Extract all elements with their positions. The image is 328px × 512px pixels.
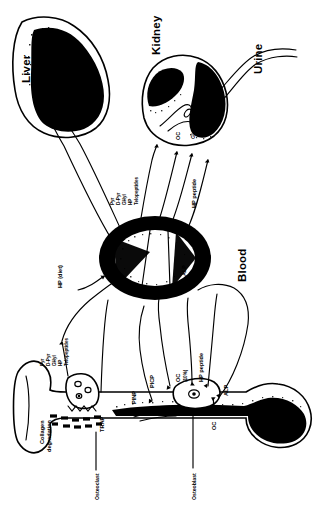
blood-alp-label: ALP [181,265,187,276]
flux-hp-peptide-line [186,160,208,232]
pinp-label: PINP [131,391,137,404]
flux-label-hp-peptide: HP peptide [191,179,197,208]
liver-group: Liver Free HP PICP [13,17,110,137]
hp-diet-label: HP (diet) [57,265,63,288]
picp-line [158,298,170,386]
kidney-oc-label: OC [175,132,181,140]
blood-trap-label: TRAP [119,273,125,288]
liver-picp-label: PICP [54,113,60,126]
osteoblast-nucleolus [192,392,196,396]
kidney-group: Kidney OC Gla [142,15,297,145]
bone-alp-label: ALP [223,385,229,396]
bone-product-dpyr: D-Pyr [46,354,51,366]
flux-label-telopeptides: Telopeptides [134,177,139,205]
bone-hp-peptide-line [208,294,217,386]
osteoblast-cell [173,379,220,409]
flux-gla-head [189,153,194,157]
flux-degradation-line [141,145,157,218]
bone-product-telopeptides: Telopeptides [64,338,69,366]
flux-degradation-labels: Pyr D-Pyr GHyl HP Telopeptides [110,177,139,205]
urine-label: Urine [252,44,264,74]
blood-group: TRAP ALP Blood [99,216,248,300]
flux-label-dpyr: D-Pyr [116,193,121,205]
flux-label-ghyl: GHyl [122,194,127,205]
picp-label: PICP [149,375,155,388]
resorption-products-labels: Pyr D-Pyr GHyl HP Telopeptides [40,338,69,366]
trap-line [101,300,108,392]
flux-label-pyr: Pyr [110,197,115,205]
bone-group: Collagen degradation Osteoclast Pyr D-Py… [14,282,312,500]
oc10-label-line2: (10%) [183,369,188,382]
flux-degradation-head [154,144,159,148]
liver-label: Liver [20,54,32,83]
flux-gla-line [172,154,192,222]
hp-diet-input: HP (diet) [57,265,105,290]
blood-to-liver-picp [67,124,122,232]
bone-oc-label: OC [211,422,217,430]
bone-product-ghyl: GHyl [52,355,57,366]
trap-label: TRAP [99,417,105,432]
hp-diet-arrow-line [78,276,104,290]
kidney-gla-label: Gla [190,129,196,139]
blood-to-liver-freehp [51,122,112,240]
bone-turnover-diagram: Liver Free HP PICP [0,0,328,512]
liver-free-hp-label: Free HP [40,93,46,114]
resorption-products-arrowhead [59,341,64,345]
diagram-canvas: Liver Free HP PICP [0,0,328,512]
flux-hp-peptide-head [205,159,210,163]
flux-oc-line [160,152,177,217]
collagen-degradation-line2: degradation [46,419,52,452]
osteoclast-label: Osteoclast [94,473,100,500]
osteoclast-cell [66,374,99,409]
flux-oc-head [174,151,179,155]
bone-product-hp: HP [58,360,63,366]
osteoclast-nucleolus [78,395,81,398]
blood-label: Blood [236,248,248,282]
bone-product-pyr: Pyr [40,358,45,366]
kidney-label: Kidney [150,15,162,55]
osteoblast-label: Osteoblast [191,473,197,500]
collagen-degradation-line1: Collagen [39,420,45,444]
flux-label-hp: HP [128,199,133,205]
oc10-label-line1: OC [175,374,181,382]
bone-hp-peptide-label: HP peptide [198,353,204,382]
